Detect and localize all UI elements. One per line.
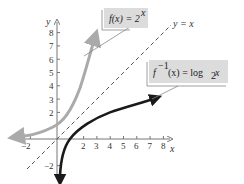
exp-label-exponent: x <box>140 7 146 18</box>
x-tick-label: 5 <box>121 141 126 151</box>
exp-label-text: f(x) = 2 <box>109 13 140 25</box>
x-tick-label: 2 <box>81 141 86 151</box>
log-label-body: (x) = log <box>168 67 203 79</box>
log-curve <box>60 98 156 176</box>
x-tick-label: 7 <box>148 141 153 151</box>
y-axis-label: y <box>45 16 51 27</box>
x-tick-label: 3 <box>94 141 99 151</box>
y-tick-label: 4 <box>49 81 54 91</box>
x-tick-label: −2 <box>21 141 31 151</box>
y-tick-label: 7 <box>49 41 54 51</box>
identity-line-label: y = x <box>172 18 194 29</box>
y-tick-label: 6 <box>49 55 54 65</box>
y-tick-label: 3 <box>49 95 54 105</box>
log-label-box: f −1 (x) = log 2 x <box>147 60 228 99</box>
x-tick-label: 6 <box>134 141 139 151</box>
x-tick-label: 8 <box>161 141 166 151</box>
y-tick-label: 5 <box>49 68 54 78</box>
exp-curve <box>26 37 95 136</box>
x-axis-label: x <box>169 143 175 154</box>
log-label-x: x <box>214 67 220 78</box>
graph-figure: −2 2 3 4 5 6 7 8 x 8 7 6 5 4 3 2 −2 y y … <box>0 0 244 184</box>
graph-svg: −2 2 3 4 5 6 7 8 x 8 7 6 5 4 3 2 −2 y y … <box>0 0 244 184</box>
y-tick-label: 2 <box>49 108 54 118</box>
x-tick-label: 4 <box>108 141 113 151</box>
y-tick-label: 8 <box>49 28 54 38</box>
exp-label-box: f(x) = 2 x <box>84 7 148 56</box>
y-tick-label: −2 <box>44 161 54 171</box>
